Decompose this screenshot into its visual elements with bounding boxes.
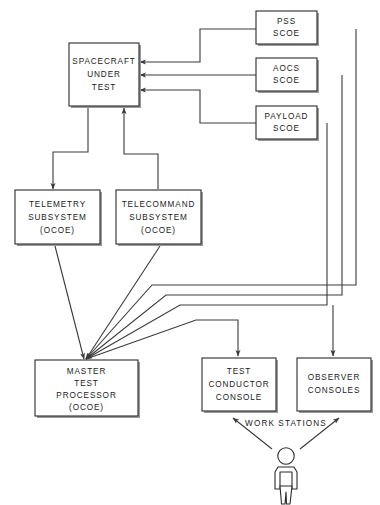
box-label-line: TEST	[92, 83, 117, 92]
box-label-line: SPACECRAFT	[72, 57, 135, 66]
box-label-line: PAYLOAD	[265, 112, 309, 121]
box-label-line: (OCOE)	[40, 226, 75, 235]
box-label-line: (OCOE)	[69, 403, 104, 412]
box-label-line: CONSOLES	[308, 386, 361, 395]
connector-spacecraft-to-telemetry	[53, 106, 88, 189]
box-spacecraft-under-test: SPACECRAFT UNDER TEST	[69, 43, 141, 108]
box-outline	[256, 11, 317, 44]
operator-legs	[280, 486, 292, 504]
box-label-line: SCOE	[273, 124, 300, 133]
box-label-line: PSS	[277, 17, 296, 26]
box-outline	[256, 106, 317, 139]
diagram-canvas: SPACECRAFT UNDER TEST PSS SCOE AOCS SCOE…	[0, 0, 380, 505]
box-label-line: TELECOMMAND	[122, 200, 196, 209]
box-test-conductor-console: TEST CONDUCTOR CONSOLE	[202, 358, 278, 413]
box-master-test-processor: MASTER TEST PROCESSOR (OCOE)	[35, 360, 140, 418]
box-label-line: SUBSYSTEM	[129, 213, 188, 222]
box-label-line: SUBSYSTEM	[28, 213, 87, 222]
box-telemetry-subsystem: TELEMETRY SUBSYSTEM (OCOE)	[15, 190, 102, 246]
connector-payload-to-spacecraft	[140, 90, 256, 123]
work-stations-label: WORK STATIONS	[245, 419, 327, 428]
box-label-line: MASTER	[67, 367, 107, 376]
box-label-line: (OCOE)	[141, 226, 176, 235]
box-label-line: TEST	[227, 367, 252, 376]
box-pss-scoe: PSS SCOE	[256, 11, 319, 46]
box-label-line: TELEMETRY	[29, 200, 86, 209]
connector-pss-to-spacecraft	[140, 29, 256, 62]
box-label-line: AOCS	[273, 64, 300, 73]
box-outline	[297, 358, 371, 411]
box-label-line: TEST	[74, 379, 99, 388]
operator-head	[278, 448, 294, 464]
box-label-line: SCOE	[273, 76, 300, 85]
box-label-line: PROCESSOR	[56, 391, 116, 400]
box-label-line: SCOE	[273, 29, 300, 38]
system-architecture-diagram: SPACECRAFT UNDER TEST PSS SCOE AOCS SCOE…	[0, 0, 380, 505]
box-aocs-scoe: AOCS SCOE	[256, 58, 319, 93]
box-outline	[256, 58, 317, 91]
box-observer-consoles: OBSERVER CONSOLES	[297, 358, 373, 413]
box-label-line: UNDER	[87, 70, 121, 79]
box-label-line: CONSOLE	[216, 393, 262, 402]
box-telecommand-subsystem: TELECOMMAND SUBSYSTEM (OCOE)	[116, 190, 203, 246]
connector-telemetry-to-mtp	[55, 246, 84, 359]
connector-telecommand-to-spacecraft	[124, 108, 158, 189]
box-payload-scoe: PAYLOAD SCOE	[256, 106, 319, 141]
operator-figure-icon	[275, 448, 297, 504]
box-label-line: OBSERVER	[308, 373, 361, 382]
connector-bus-to-test-conductor-console	[86, 320, 238, 359]
connector-telecommand-to-mtp	[86, 246, 160, 359]
box-label-line: CONDUCTOR	[208, 380, 269, 389]
